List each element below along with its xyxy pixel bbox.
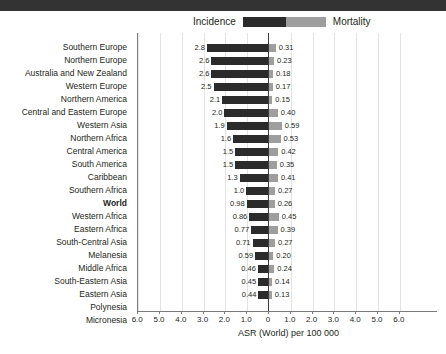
incidence-value: 0.59 — [236, 249, 253, 262]
incidence-value: 0.44 — [239, 288, 256, 301]
incidence-value: 1.5 — [216, 158, 233, 171]
category-label: Eastern Africa — [74, 223, 127, 236]
incidence-value: 1.3 — [221, 171, 238, 184]
mortality-value: 0.53 — [284, 132, 299, 145]
incidence-bar — [211, 70, 268, 78]
incidence-bar — [249, 213, 268, 221]
mortality-value: 0.31 — [279, 41, 294, 54]
mortality-bar — [269, 148, 278, 156]
legend-swatch-mortality — [286, 17, 326, 27]
chart-row: Eastern Asia0.440.13 — [0, 288, 446, 301]
incidence-value: 0.46 — [239, 262, 256, 275]
incidence-value: 1.6 — [214, 132, 231, 145]
chart-legend: Incidence Mortality — [0, 15, 446, 30]
incidence-value: 0.98 — [228, 197, 245, 210]
incidence-value: 1.0 — [227, 184, 244, 197]
mortality-value: 0.39 — [281, 223, 296, 236]
category-label: Central America — [67, 145, 127, 158]
mortality-bar — [269, 96, 272, 104]
incidence-bar — [251, 226, 268, 234]
incidence-bar — [227, 122, 268, 130]
chart-row: Western Asia1.90.59 — [0, 119, 446, 132]
category-label: Eastern Asia — [79, 288, 127, 301]
incidence-value: 2.8 — [188, 41, 205, 54]
category-label: Melanesia — [88, 249, 127, 262]
incidence-value: 2.0 — [205, 106, 222, 119]
mortality-value: 0.45 — [282, 210, 297, 223]
category-label: South America — [72, 158, 127, 171]
incidence-value: 0.86 — [230, 210, 247, 223]
incidence-bar — [247, 200, 268, 208]
mortality-bar — [269, 161, 277, 169]
incidence-bar — [207, 44, 268, 52]
category-label: Southern Africa — [69, 184, 127, 197]
mortality-value: 0.17 — [276, 80, 291, 93]
mortality-value: 0.42 — [281, 145, 296, 158]
mortality-bar — [269, 187, 275, 195]
incidence-value: 2.6 — [192, 54, 209, 67]
mortality-value: 0.27 — [278, 236, 293, 249]
mortality-value: 0.24 — [277, 262, 292, 275]
incidence-bar — [235, 161, 268, 169]
incidence-bar — [258, 278, 268, 286]
mortality-bar — [269, 135, 281, 143]
mortality-value: 0.40 — [281, 106, 296, 119]
category-label: South-Central Asia — [56, 236, 127, 249]
category-label: South-Eastern Asia — [54, 275, 127, 288]
chart-row: South America1.50.35 — [0, 158, 446, 171]
x-axis-tick-label: 6.0 — [386, 314, 412, 325]
chart-row: South-Eastern Asia0.450.14 — [0, 275, 446, 288]
legend-label-incidence: Incidence — [193, 15, 236, 28]
x-axis-title: ASR (World) per 100 000 — [0, 328, 446, 338]
incidence-bar — [258, 291, 268, 299]
mortality-bar — [269, 200, 275, 208]
mortality-bar — [269, 57, 274, 65]
chart-row: Australia and New Zealand2.60.18 — [0, 67, 446, 80]
incidence-bar — [211, 57, 268, 65]
legend-swatch-incidence — [243, 17, 286, 27]
incidence-value: 0.45 — [239, 275, 256, 288]
chart-row: Caribbean1.30.41 — [0, 171, 446, 184]
chart-row: Western Africa0.860.45 — [0, 210, 446, 223]
chart-row: World0.980.26 — [0, 197, 446, 210]
chart-row: Central and Eastern Europe2.00.40 — [0, 106, 446, 119]
mortality-bar — [269, 44, 276, 52]
chart-row: Central America1.50.42 — [0, 145, 446, 158]
mortality-bar — [269, 291, 272, 299]
category-label: Central and Eastern Europe — [22, 106, 127, 119]
category-label: Western Asia — [77, 119, 127, 132]
chart-row: Southern Africa1.00.27 — [0, 184, 446, 197]
chart-row: Middle Africa0.460.24 — [0, 262, 446, 275]
category-label: Micronesia — [86, 314, 127, 327]
incidence-value: 2.1 — [203, 93, 220, 106]
mortality-bar — [269, 122, 282, 130]
incidence-bar — [214, 83, 269, 91]
incidence-bar — [255, 252, 268, 260]
category-label: Australia and New Zealand — [25, 67, 127, 80]
mortality-bar — [269, 239, 275, 247]
mortality-bar — [269, 109, 278, 117]
mortality-value: 0.18 — [276, 67, 291, 80]
category-label: Western Africa — [72, 210, 127, 223]
mortality-value: 0.14 — [275, 275, 290, 288]
mortality-value: 0.27 — [278, 184, 293, 197]
incidence-bar — [246, 187, 268, 195]
mortality-value: 0.23 — [277, 54, 292, 67]
chart-rows: Southern Europe2.80.31Northern Europe2.6… — [0, 41, 446, 327]
mortality-value: 0.20 — [276, 249, 291, 262]
incidence-bar — [233, 135, 268, 143]
chart-row: Western Europe2.50.17 — [0, 80, 446, 93]
mortality-value: 0.41 — [281, 171, 296, 184]
incidence-value: 0.71 — [234, 236, 251, 249]
chart-row: Melanesia0.590.20 — [0, 249, 446, 262]
mortality-value: 0.13 — [275, 288, 290, 301]
category-label: Polynesia — [90, 301, 127, 314]
chart-row: Northern Africa1.60.53 — [0, 132, 446, 145]
category-label: Middle Africa — [78, 262, 127, 275]
incidence-bar — [240, 174, 268, 182]
category-label: Northern Africa — [70, 132, 127, 145]
mortality-bar — [269, 174, 278, 182]
category-label: Northern Europe — [64, 54, 127, 67]
incidence-bar — [235, 148, 268, 156]
incidence-bar — [253, 239, 268, 247]
